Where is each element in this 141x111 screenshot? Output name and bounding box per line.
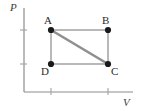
point-label-b: B bbox=[102, 15, 109, 26]
x-axis-label: V bbox=[123, 97, 130, 108]
point-label-c: C bbox=[111, 66, 118, 77]
point-label-d: D bbox=[41, 66, 49, 77]
diagonal-a-c bbox=[51, 30, 108, 64]
pv-diagram-figure: P V A B C D bbox=[0, 0, 141, 111]
y-axis-label: P bbox=[10, 2, 17, 13]
axes-group bbox=[20, 8, 133, 95]
point-b bbox=[105, 27, 111, 33]
pv-diagram-canvas bbox=[0, 0, 141, 111]
point-a bbox=[48, 27, 54, 33]
point-label-a: A bbox=[44, 15, 52, 26]
